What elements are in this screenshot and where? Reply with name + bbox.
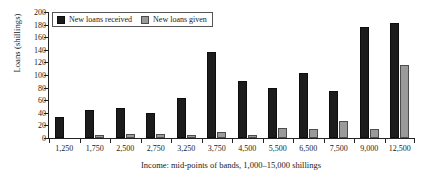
bar-group: 2,500: [110, 12, 141, 138]
x-tick-label: 1,250: [55, 144, 73, 153]
bar-group: 4,500: [232, 12, 263, 138]
bar-received[interactable]: [390, 23, 399, 138]
x-tick-label: 7,500: [330, 144, 348, 153]
x-tick-label: 3,250: [177, 144, 195, 153]
bar-chart-figure: Loans (shillings) 0204060801001201401601…: [0, 0, 422, 182]
y-tick-label: 0: [42, 134, 46, 143]
y-tick-label: 180: [34, 20, 46, 29]
bar-given[interactable]: [370, 129, 379, 138]
y-axis-title: Loans (shillings): [12, 0, 26, 98]
bar-given[interactable]: [187, 135, 196, 138]
bar-group: 12,500: [385, 12, 416, 138]
legend-swatch-icon-received: [57, 16, 65, 24]
bar-received[interactable]: [85, 110, 94, 138]
bar-received[interactable]: [55, 117, 64, 138]
bar-group: 9,000: [354, 12, 385, 138]
y-tick-label: 140: [34, 45, 46, 54]
x-tick-label: 1,750: [86, 144, 104, 153]
bar-received[interactable]: [116, 108, 125, 138]
y-tick-label: 100: [34, 71, 46, 80]
bar-given[interactable]: [400, 65, 409, 138]
x-tick-mark: [293, 138, 294, 143]
legend-item-given: New loans given: [141, 15, 207, 24]
bar-given[interactable]: [309, 129, 318, 138]
bar-received[interactable]: [360, 27, 369, 138]
x-tick-mark: [141, 138, 142, 143]
bar-groups: 1,2501,7502,5002,7503,2503,7504,5005,500…: [49, 12, 415, 138]
bar-group: 3,750: [202, 12, 233, 138]
bar-group: 6,500: [293, 12, 324, 138]
y-tick-label: 60: [38, 96, 46, 105]
bar-given[interactable]: [126, 134, 135, 138]
x-tick-mark: [80, 138, 81, 143]
bar-group: 1,750: [80, 12, 111, 138]
bar-received[interactable]: [299, 73, 308, 138]
bar-received[interactable]: [207, 52, 216, 138]
x-tick-mark: [385, 138, 386, 143]
x-tick-mark: [202, 138, 203, 143]
legend-item-received: New loans received: [57, 15, 132, 24]
bar-given[interactable]: [217, 132, 226, 138]
legend-label-given: New loans given: [153, 15, 207, 24]
bar-given[interactable]: [95, 135, 104, 138]
x-tick-mark: [324, 138, 325, 143]
x-tick-label: 6,500: [299, 144, 317, 153]
bar-given[interactable]: [248, 135, 257, 138]
x-axis-title: Income: mid-points of bands, 1,000–15,00…: [48, 160, 414, 170]
x-tick-label: 12,500: [389, 144, 411, 153]
bar-received[interactable]: [177, 98, 186, 138]
bar-given[interactable]: [156, 134, 165, 138]
y-tick-label: 160: [34, 33, 46, 42]
chart-legend: New loans received New loans given: [52, 12, 213, 27]
y-tick-label: 20: [38, 121, 46, 130]
x-tick-label: 9,000: [360, 144, 378, 153]
bar-group: 1,250: [49, 12, 80, 138]
bar-received[interactable]: [146, 113, 155, 138]
bar-given[interactable]: [278, 128, 287, 138]
y-tick-label: 200: [34, 8, 46, 17]
legend-label-received: New loans received: [69, 15, 132, 24]
y-tick-label: 80: [38, 83, 46, 92]
bar-received[interactable]: [329, 91, 338, 138]
x-tick-mark: [232, 138, 233, 143]
x-tick-mark: [171, 138, 172, 143]
bar-received[interactable]: [238, 81, 247, 138]
bar-group: 3,250: [171, 12, 202, 138]
bar-received[interactable]: [268, 88, 277, 138]
bar-group: 2,750: [141, 12, 172, 138]
x-tick-label: 2,750: [147, 144, 165, 153]
x-tick-label: 4,500: [238, 144, 256, 153]
x-tick-label: 5,500: [269, 144, 287, 153]
legend-swatch-icon-given: [141, 16, 149, 24]
bar-group: 7,500: [324, 12, 355, 138]
y-tick-label: 120: [34, 58, 46, 67]
plot-area: 020406080100120140160180200 1,2501,7502,…: [48, 12, 415, 139]
x-tick-mark: [414, 138, 415, 143]
bar-group: 5,500: [263, 12, 294, 138]
x-tick-label: 3,750: [208, 144, 226, 153]
x-tick-mark: [49, 138, 50, 143]
x-tick-mark: [354, 138, 355, 143]
x-tick-label: 2,500: [116, 144, 134, 153]
y-tick-label: 40: [38, 108, 46, 117]
x-tick-mark: [110, 138, 111, 143]
bar-given[interactable]: [339, 121, 348, 138]
x-tick-mark: [263, 138, 264, 143]
